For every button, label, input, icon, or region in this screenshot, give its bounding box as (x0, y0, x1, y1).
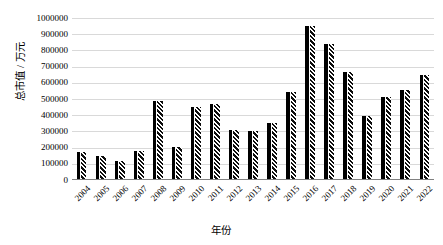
bar (153, 101, 163, 179)
y-axis-tick-label: 700000 (14, 62, 68, 71)
y-axis-tick-label: 400000 (14, 111, 68, 120)
bars-group (72, 18, 434, 180)
y-axis-tick-label: 300000 (14, 127, 68, 136)
bar (400, 90, 410, 179)
y-axis-tick-label: 200000 (14, 143, 68, 152)
y-axis-tick-labels: 0100000200000300000400000500000600000700… (14, 12, 68, 186)
bar-hatched-segment (137, 151, 143, 179)
bar (172, 147, 182, 179)
x-axis-tick-label: 2019 (354, 184, 377, 207)
x-axis-tick-label: 2009 (164, 184, 187, 207)
y-axis-tick-label: 0 (14, 176, 68, 185)
bar (420, 75, 430, 179)
bar-hatched-segment (290, 92, 296, 179)
bar (77, 152, 87, 179)
bar (248, 131, 258, 179)
bar-chart: 总市值 / 万元 0100000200000300000400000500000… (0, 0, 443, 245)
x-axis-tick-label: 2008 (145, 184, 168, 207)
bar-hatched-segment (404, 90, 410, 179)
bar-hatched-segment (271, 123, 277, 179)
bar-hatched-segment (347, 72, 353, 179)
x-axis-tick-label: 2015 (278, 184, 301, 207)
bar-hatched-segment (156, 101, 162, 179)
x-axis-tick-label: 2014 (259, 184, 282, 207)
bar (286, 92, 296, 179)
bar-hatched-segment (175, 147, 181, 179)
bar (134, 151, 144, 179)
x-axis-tick-label: 2011 (202, 184, 225, 207)
bar-hatched-segment (80, 152, 86, 179)
bar (96, 156, 106, 179)
y-axis-tick-label: 1000000 (14, 14, 68, 23)
bar-hatched-segment (328, 44, 334, 179)
y-axis-tick-label: 100000 (14, 159, 68, 168)
bar-hatched-segment (252, 131, 258, 179)
y-axis-tick-label: 800000 (14, 46, 68, 55)
x-axis-tick-label: 2005 (88, 184, 111, 207)
bar (115, 161, 125, 179)
x-axis-tick-label: 2007 (126, 184, 149, 207)
x-axis-tick-label: 2017 (316, 184, 339, 207)
bar-hatched-segment (194, 107, 200, 179)
bar-hatched-segment (213, 104, 219, 179)
bar (324, 44, 334, 179)
bar (229, 130, 239, 179)
bar-hatched-segment (385, 97, 391, 179)
bar (343, 72, 353, 179)
y-axis-tick-label: 500000 (14, 95, 68, 104)
x-axis-tick-label: 2010 (183, 184, 206, 207)
x-axis-title: 年份 (0, 222, 443, 237)
y-axis-tick-label: 900000 (14, 30, 68, 39)
x-axis-tick-label: 2006 (107, 184, 130, 207)
x-axis-tick-label: 2012 (221, 184, 244, 207)
bar-hatched-segment (118, 161, 124, 179)
x-axis-tick-label: 2022 (411, 184, 434, 207)
bar (362, 116, 372, 179)
bar-hatched-segment (309, 26, 315, 179)
bar (381, 97, 391, 179)
x-axis-tick-label: 2013 (240, 184, 263, 207)
x-axis-tick-label: 2018 (335, 184, 358, 207)
x-axis-line (72, 179, 434, 180)
x-axis-tick-label: 2021 (392, 184, 415, 207)
x-axis-tick-label: 2004 (69, 184, 92, 207)
bar (210, 104, 220, 179)
plot-area (72, 18, 434, 180)
bar-hatched-segment (232, 130, 238, 179)
y-axis-tick-label: 600000 (14, 78, 68, 87)
x-axis-tick-labels: 2004200520062007200820092010201120122013… (72, 182, 434, 222)
bar-hatched-segment (366, 116, 372, 179)
bar (267, 123, 277, 179)
bar (305, 26, 315, 179)
bar (191, 107, 201, 179)
bar-hatched-segment (423, 75, 429, 179)
x-axis-tick-label: 2016 (297, 184, 320, 207)
x-axis-tick-label: 2020 (373, 184, 396, 207)
bar-hatched-segment (99, 156, 105, 179)
